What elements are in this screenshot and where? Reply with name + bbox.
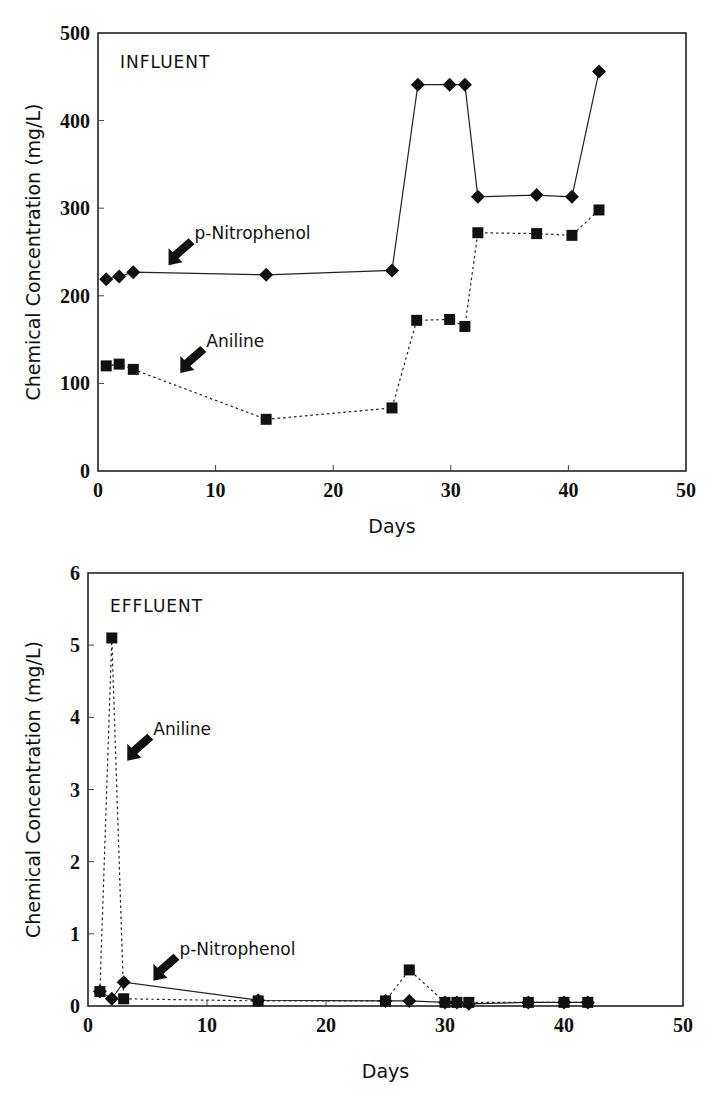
- diamond-marker: [411, 78, 425, 92]
- y-tick-label: 500: [60, 22, 90, 44]
- y-tick-label: 0: [70, 995, 80, 1017]
- diamond-marker: [117, 975, 131, 989]
- diamond-marker: [458, 78, 472, 92]
- square-marker: [128, 364, 139, 375]
- square-marker: [261, 414, 272, 425]
- effluent-chart: 010203040500123456DaysChemical Concentra…: [22, 562, 693, 1082]
- diamond-marker: [385, 263, 399, 277]
- series-annotation: p-Nitrophenol: [179, 939, 295, 959]
- x-tick-label: 30: [435, 1014, 455, 1036]
- series-annotation: Aniline: [206, 331, 264, 351]
- diamond-marker: [530, 188, 544, 202]
- square-marker: [593, 204, 604, 215]
- figure: 010203040500100200300400500DaysChemical …: [0, 0, 711, 1104]
- diamond-marker: [471, 190, 485, 204]
- panel-label: INFLUENT: [120, 52, 210, 72]
- diamond-marker: [443, 78, 457, 92]
- x-tick-label: 0: [93, 479, 103, 501]
- x-tick-label: 10: [206, 479, 226, 501]
- arrow-icon: [153, 954, 179, 981]
- y-tick-label: 4: [70, 706, 80, 728]
- y-tick-label: 1: [70, 923, 80, 945]
- plot-frame: [88, 573, 683, 1006]
- square-marker: [118, 993, 129, 1004]
- series-aniline: [94, 632, 593, 1007]
- y-tick-label: 200: [60, 285, 90, 307]
- square-marker: [531, 228, 542, 239]
- diamond-marker: [592, 65, 606, 79]
- x-tick-label: 40: [558, 479, 578, 501]
- y-tick-label: 6: [70, 562, 80, 584]
- influent-chart: 010203040500100200300400500DaysChemical …: [22, 22, 696, 537]
- arrow-icon: [127, 734, 153, 761]
- square-marker: [114, 359, 125, 370]
- series-annotation: p-Nitrophenol: [195, 223, 311, 243]
- x-tick-label: 40: [554, 1014, 574, 1036]
- square-marker: [101, 360, 112, 371]
- x-tick-label: 30: [441, 479, 461, 501]
- x-tick-label: 20: [316, 1014, 336, 1036]
- x-tick-label: 20: [323, 479, 343, 501]
- x-tick-label: 0: [83, 1014, 93, 1036]
- y-tick-label: 5: [70, 634, 80, 656]
- square-marker: [387, 402, 398, 413]
- arrow-icon: [180, 346, 206, 373]
- x-axis-label: Days: [362, 1060, 409, 1082]
- square-marker: [411, 315, 422, 326]
- diamond-marker: [112, 270, 126, 284]
- y-tick-label: 400: [60, 110, 90, 132]
- x-tick-label: 10: [197, 1014, 217, 1036]
- diamond-marker: [126, 265, 140, 279]
- y-axis-label: Chemical Concentration (mg/L): [22, 641, 44, 938]
- panel-label: EFFLUENT: [110, 596, 203, 616]
- y-tick-label: 300: [60, 197, 90, 219]
- square-marker: [472, 227, 483, 238]
- x-tick-label: 50: [676, 479, 696, 501]
- y-tick-label: 3: [70, 779, 80, 801]
- x-axis-label: Days: [368, 515, 415, 537]
- square-marker: [459, 321, 470, 332]
- diamond-marker: [259, 268, 273, 282]
- series-annotation: Aniline: [153, 719, 211, 739]
- diamond-marker: [565, 190, 579, 204]
- square-marker: [444, 314, 455, 325]
- series-aniline: [101, 204, 605, 424]
- y-tick-label: 2: [70, 851, 80, 873]
- y-tick-label: 100: [60, 372, 90, 394]
- diamond-marker: [105, 992, 119, 1006]
- square-marker: [566, 230, 577, 241]
- x-tick-label: 50: [673, 1014, 693, 1036]
- y-axis-label: Chemical Concentration (mg/L): [22, 103, 44, 400]
- y-tick-label: 0: [80, 460, 90, 482]
- square-marker: [106, 632, 117, 643]
- arrow-icon: [169, 238, 195, 265]
- diamond-marker: [99, 272, 113, 286]
- square-marker: [404, 964, 415, 975]
